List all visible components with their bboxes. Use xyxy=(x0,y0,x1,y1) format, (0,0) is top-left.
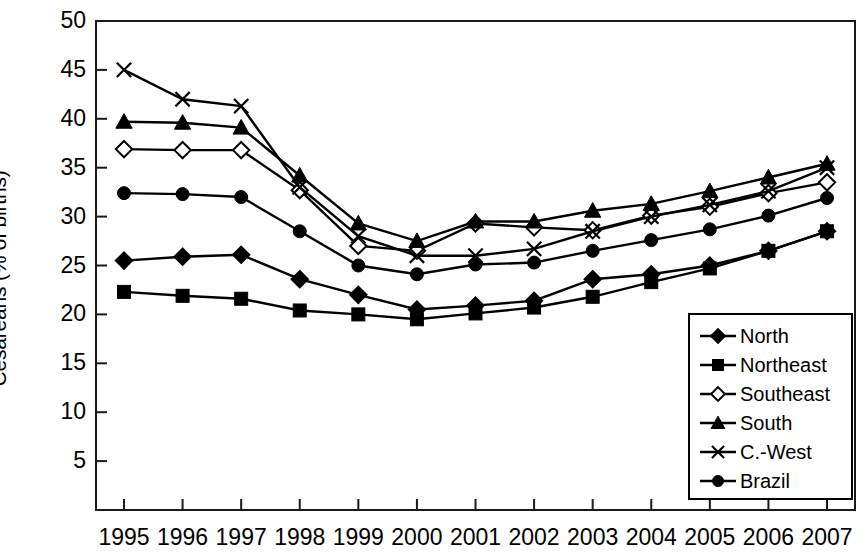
data-point xyxy=(528,301,541,314)
data-point xyxy=(703,223,716,236)
data-point xyxy=(410,268,423,281)
data-point xyxy=(821,192,834,205)
data-point xyxy=(586,244,599,257)
legend-item-northeast[interactable]: Northeast xyxy=(690,350,851,379)
data-point xyxy=(410,313,423,326)
data-point xyxy=(350,287,366,303)
legend-item-label: North xyxy=(738,326,789,346)
data-point xyxy=(645,276,658,289)
data-point xyxy=(176,289,189,302)
data-point xyxy=(819,174,835,190)
legend-item-label: Brazil xyxy=(738,471,790,491)
legend-item-label: Northeast xyxy=(738,355,827,375)
data-point xyxy=(645,234,658,247)
data-series-group xyxy=(116,63,835,326)
data-point xyxy=(116,252,132,268)
data-point xyxy=(292,271,308,287)
data-point xyxy=(821,225,834,238)
series-line xyxy=(124,149,827,251)
cross-x-icon xyxy=(698,441,738,463)
data-point xyxy=(176,188,189,201)
data-point xyxy=(174,142,190,158)
legend-item-south[interactable]: South xyxy=(690,408,851,437)
data-point xyxy=(235,191,248,204)
data-point xyxy=(116,141,132,157)
data-point xyxy=(703,262,716,275)
legend-item-north[interactable]: North xyxy=(690,321,851,350)
data-point xyxy=(352,308,365,321)
data-point xyxy=(469,258,482,271)
chart-figure: Cesareans (% of births) 5101520253035404… xyxy=(0,0,868,557)
data-point xyxy=(117,63,131,77)
open-diamond-icon xyxy=(698,383,738,405)
filled-diamond-icon xyxy=(698,325,738,347)
data-point xyxy=(235,292,248,305)
data-point xyxy=(233,247,249,263)
legend-item-label: Southeast xyxy=(738,384,830,404)
data-point xyxy=(174,249,190,265)
legend-item-label: C.-West xyxy=(738,442,812,462)
data-point xyxy=(233,142,249,158)
data-point xyxy=(352,259,365,272)
legend-item-label: South xyxy=(738,413,792,433)
data-point xyxy=(762,209,775,222)
filled-circle-icon xyxy=(698,470,738,492)
data-point xyxy=(118,187,131,200)
data-point xyxy=(585,271,601,287)
legend-item-southeast[interactable]: Southeast xyxy=(690,379,851,408)
legend: NorthNortheastSoutheastSouthC.-WestBrazi… xyxy=(688,313,853,500)
filled-square-icon xyxy=(698,354,738,376)
data-point xyxy=(528,256,541,269)
series-south xyxy=(116,114,835,248)
data-point xyxy=(762,244,775,257)
legend-item-brazil[interactable]: Brazil xyxy=(690,466,851,495)
data-point xyxy=(293,304,306,317)
data-point xyxy=(586,290,599,303)
data-point xyxy=(469,307,482,320)
legend-item-c-west[interactable]: C.-West xyxy=(690,437,851,466)
series-northeast xyxy=(118,225,834,326)
data-point xyxy=(118,285,131,298)
filled-triangle-icon xyxy=(698,412,738,434)
data-point xyxy=(293,225,306,238)
